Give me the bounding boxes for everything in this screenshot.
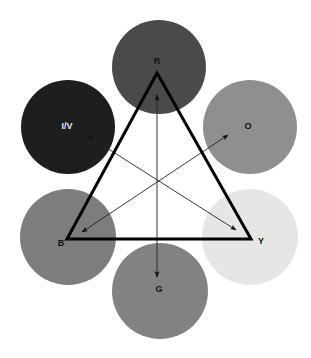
label-red: R: [154, 56, 161, 66]
label-indigo-violet: I/V: [61, 121, 72, 131]
circle-red: [112, 20, 206, 114]
label-blue: B: [58, 238, 65, 248]
label-green: G: [155, 284, 162, 294]
label-yellow: Y: [258, 236, 264, 246]
color-wheel-diagram: ROYGBI/V: [0, 0, 311, 358]
label-orange: O: [244, 121, 251, 131]
